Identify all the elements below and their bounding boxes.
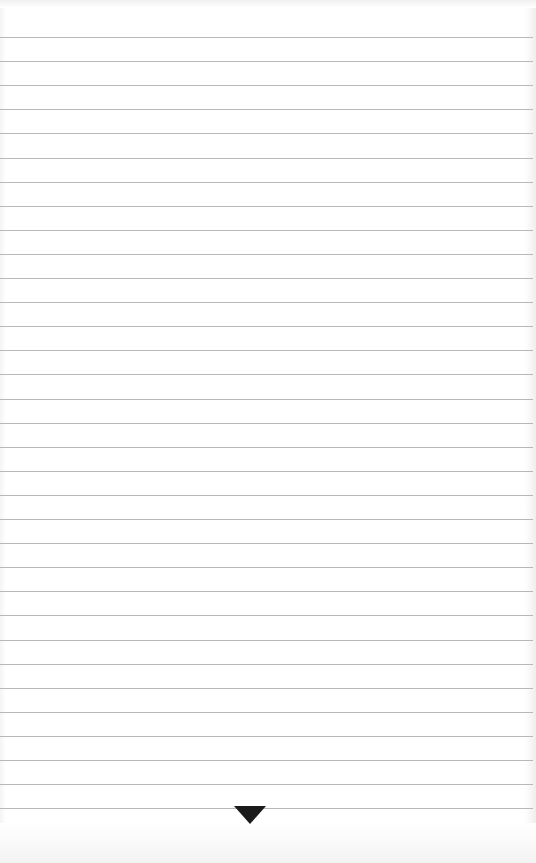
ruled-line [0, 712, 533, 713]
ruled-line [0, 109, 533, 110]
ruled-line [0, 37, 533, 38]
ruled-line [0, 230, 533, 231]
ruled-line [0, 182, 533, 183]
ruled-line [0, 399, 533, 400]
ruled-line [0, 495, 533, 496]
ruled-line [0, 808, 533, 809]
ruled-line [0, 736, 533, 737]
ruled-line [0, 688, 533, 689]
ruled-line [0, 61, 533, 62]
ruled-line [0, 471, 533, 472]
ruled-line [0, 302, 533, 303]
ruled-line [0, 591, 533, 592]
ruled-line [0, 423, 533, 424]
ruled-line [0, 784, 533, 785]
ruled-line [0, 254, 533, 255]
ruled-line [0, 374, 533, 375]
ruled-line [0, 278, 533, 279]
ruled-line [0, 664, 533, 665]
triangle-down-icon [234, 806, 266, 824]
ruled-line [0, 447, 533, 448]
paper-bottom-edge [0, 823, 536, 863]
lined-paper [0, 0, 536, 863]
ruled-line [0, 543, 533, 544]
ruled-line [0, 158, 533, 159]
ruled-line [0, 615, 533, 616]
ruled-line [0, 519, 533, 520]
ruled-line [0, 640, 533, 641]
ruled-line [0, 85, 533, 86]
ruled-line [0, 350, 533, 351]
ruled-line [0, 206, 533, 207]
ruled-line [0, 567, 533, 568]
ruled-line [0, 326, 533, 327]
ruled-line [0, 760, 533, 761]
ruled-line [0, 133, 533, 134]
paper-top-edge [0, 0, 536, 8]
